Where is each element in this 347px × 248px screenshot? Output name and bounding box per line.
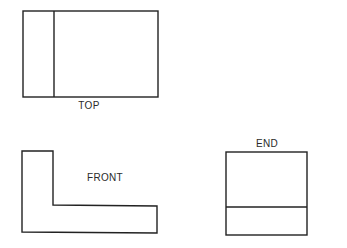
front-view-outline <box>22 151 157 233</box>
end-view: END <box>226 138 307 235</box>
top-view: TOP <box>23 11 158 111</box>
top-view-outline <box>23 11 158 97</box>
orthographic-projection-diagram: TOP FRONT END <box>0 0 347 248</box>
top-view-label: TOP <box>78 100 99 111</box>
front-view-label: FRONT <box>87 172 123 183</box>
front-view: FRONT <box>22 151 157 233</box>
end-view-outline <box>226 152 307 235</box>
end-view-label: END <box>256 138 278 149</box>
